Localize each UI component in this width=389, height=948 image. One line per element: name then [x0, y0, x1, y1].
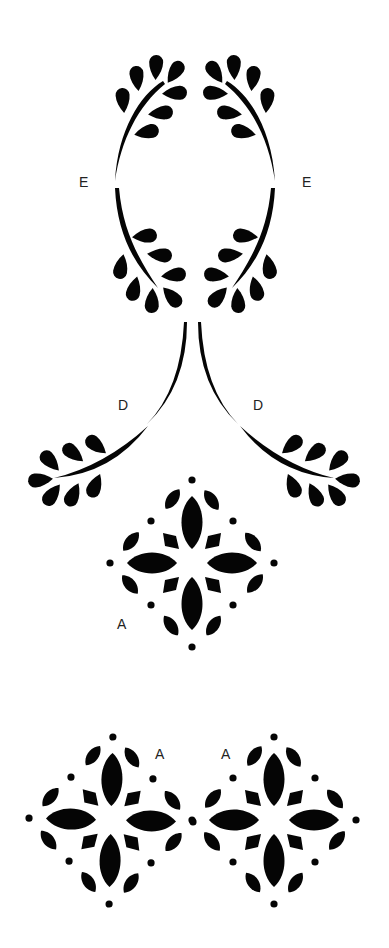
- e-wreath-right-half: [202, 55, 278, 314]
- d-sprig-left: [27, 426, 148, 509]
- label-d-right: D: [253, 397, 263, 413]
- leaf-cutout: [162, 58, 188, 87]
- leaf-cutout: [112, 253, 131, 280]
- label-a-bottom-left: A: [155, 746, 165, 762]
- leaf-cutout: [149, 55, 164, 80]
- leaf-cutout: [82, 432, 110, 459]
- diamond-motif-bottom-right: [188, 733, 359, 907]
- label-a-bottom-right: A: [221, 746, 231, 762]
- leaf-cutout: [129, 65, 146, 92]
- d-stem-upper-right: [198, 322, 238, 424]
- leaf-cutout: [146, 247, 172, 263]
- leaf-cutout: [158, 283, 185, 311]
- leaf-cutout: [62, 480, 85, 509]
- label-d-left: D: [118, 397, 128, 413]
- leaf-cutout: [124, 275, 144, 303]
- diamond-motif-top: [106, 476, 277, 650]
- leaf-cutout: [115, 87, 131, 113]
- label-e-left: E: [79, 174, 88, 190]
- leaf-cutout: [59, 440, 87, 467]
- label-e-right: E: [302, 174, 311, 190]
- leaf-cutout: [131, 228, 157, 244]
- leaf-cutout: [147, 105, 174, 122]
- leaf-cutout: [37, 447, 64, 475]
- d-sprig-right: [240, 426, 361, 509]
- leaf-cutout: [84, 471, 107, 499]
- stencil-sheet: E E D D A A A: [0, 0, 389, 948]
- e-wreath-left-half: [112, 55, 188, 314]
- e-sprig-top-left: [115, 55, 188, 181]
- leaf-cutout: [27, 472, 53, 489]
- leaf-cutout: [162, 85, 188, 100]
- piece-e-wreath: [112, 55, 278, 314]
- label-a-top: A: [117, 616, 127, 632]
- leaf-cutout: [144, 288, 159, 314]
- piece-a-motifs: [23, 476, 359, 909]
- stencil-canvas: E E D D A A A: [0, 0, 389, 948]
- leaf-cutout: [133, 123, 160, 142]
- e-sprig-bottom-left: [112, 188, 187, 313]
- diamond-motif-bottom-left: [23, 731, 198, 909]
- leaf-cutout: [160, 267, 187, 284]
- d-stem-upper-left: [147, 322, 187, 424]
